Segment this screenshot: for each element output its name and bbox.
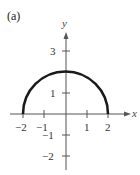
- y-tick-label: 3: [50, 46, 56, 57]
- y-axis-label: y: [62, 18, 67, 29]
- y-axis-arrow-icon: [64, 32, 69, 39]
- semicircle-plot: [0, 0, 140, 175]
- x-tick-label: 1: [84, 122, 90, 133]
- x-tick-label: 2: [105, 122, 111, 133]
- x-axis-arrow-icon: [124, 112, 131, 117]
- y-tick-label: −1: [42, 130, 54, 141]
- y-tick-label: −2: [42, 151, 54, 162]
- x-axis-label: x: [132, 108, 137, 119]
- x-tick-label: −2: [15, 122, 27, 133]
- y-tick-label: 1: [50, 88, 56, 99]
